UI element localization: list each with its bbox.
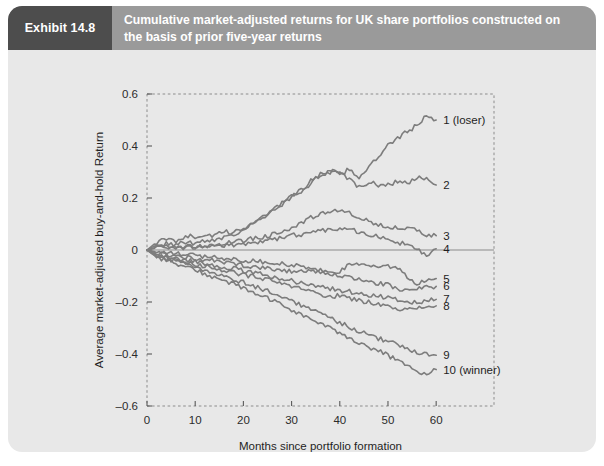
y-axis-tick-label: –0.2 <box>116 296 138 308</box>
returns-line-chart: 0.60.40.20–0.2–0.4–0.601020304050601 (lo… <box>8 50 596 452</box>
x-axis-tick-label: 10 <box>189 414 202 426</box>
y-axis-tick-label: 0.6 <box>122 88 138 100</box>
x-axis-tick-label: 50 <box>382 414 395 426</box>
series-label-1: 1 (loser) <box>443 114 485 126</box>
y-axis-tick-label: 0.2 <box>122 192 138 204</box>
series-line-3 <box>147 209 436 250</box>
exhibit-header: Exhibit 14.8 Cumulative market-adjusted … <box>8 6 596 50</box>
series-label-8: 8 <box>443 300 449 312</box>
y-axis-tick-label: 0 <box>132 244 138 256</box>
y-axis-tick-label: 0.4 <box>122 140 139 152</box>
chart-svg-root: 0.60.40.20–0.2–0.4–0.601020304050601 (lo… <box>93 88 501 452</box>
exhibit-card: Exhibit 14.8 Cumulative market-adjusted … <box>8 6 596 452</box>
series-line-7 <box>147 250 436 304</box>
x-axis-tick-label: 40 <box>333 414 346 426</box>
exhibit-title: Cumulative market-adjusted returns for U… <box>124 12 576 45</box>
series-label-3: 3 <box>443 230 449 242</box>
y-axis-tick-label: –0.6 <box>116 400 138 412</box>
series-label-4: 4 <box>443 243 450 255</box>
x-axis-tick-label: 0 <box>144 414 150 426</box>
exhibit-number-tag: Exhibit 14.8 <box>8 6 112 50</box>
series-label-2: 2 <box>443 179 449 191</box>
series-label-9: 9 <box>443 349 449 361</box>
x-axis-tick-label: 30 <box>285 414 298 426</box>
series-line-6 <box>147 250 436 291</box>
y-axis-tick-label: –0.4 <box>116 348 139 360</box>
x-axis-tick-label: 60 <box>430 414 443 426</box>
y-axis-title: Average market-adjusted buy-and-hold Ret… <box>93 132 105 368</box>
x-axis-tick-label: 20 <box>237 414 250 426</box>
series-line-2 <box>147 169 436 250</box>
series-label-6: 6 <box>443 280 449 292</box>
series-line-1 <box>147 116 436 250</box>
chart-plot-area: 0.60.40.20–0.2–0.4–0.601020304050601 (lo… <box>8 50 596 452</box>
series-label-10: 10 (winner) <box>443 364 501 376</box>
x-axis-title: Months since portfolio formation <box>239 440 402 452</box>
series-line-10 <box>147 250 436 375</box>
